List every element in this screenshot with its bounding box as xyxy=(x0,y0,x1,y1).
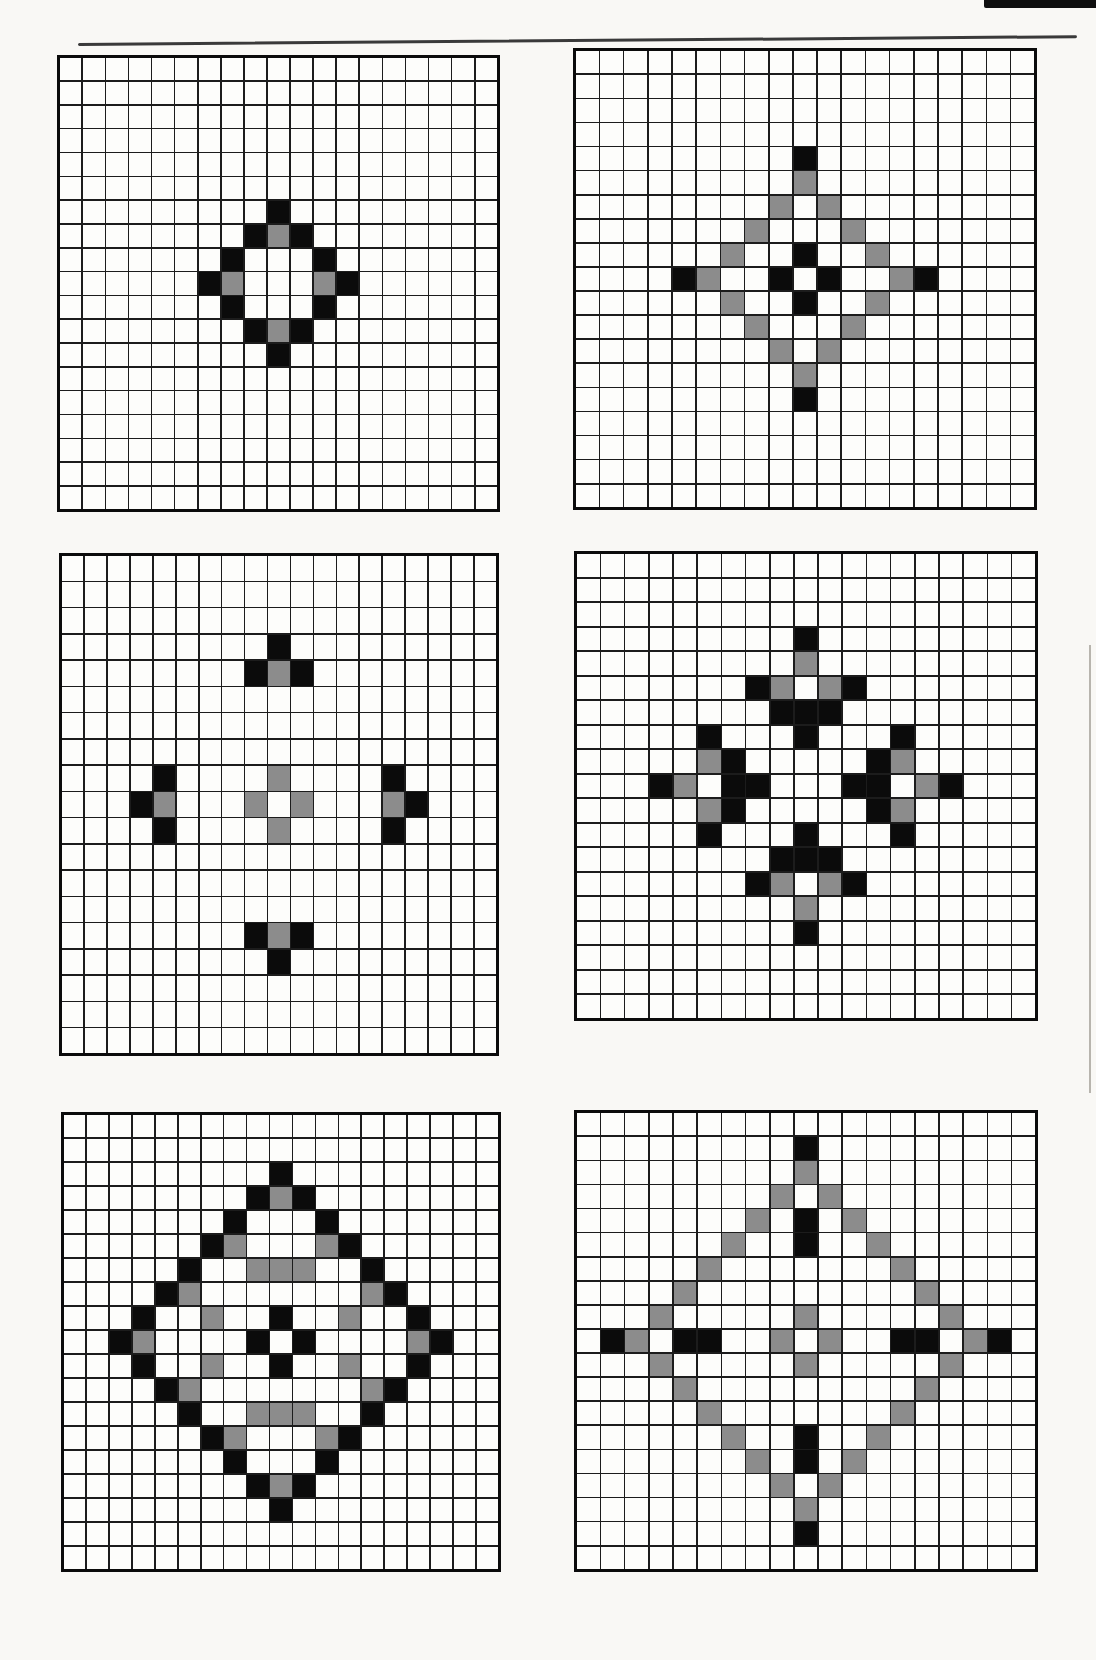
grid-cell xyxy=(600,268,623,290)
black-cell xyxy=(316,1211,337,1233)
grid-cell xyxy=(601,1474,624,1496)
grid-cell xyxy=(268,1028,289,1053)
grid-cell xyxy=(245,1002,266,1027)
black-cell xyxy=(891,1330,914,1352)
grid-cell xyxy=(674,1498,697,1521)
black-cell xyxy=(339,1427,360,1449)
grid-cell xyxy=(222,1002,243,1027)
grid-cell xyxy=(475,635,496,660)
grid-cell xyxy=(650,1450,673,1472)
grid-cell xyxy=(224,1379,245,1401)
grid-cell xyxy=(316,1547,337,1569)
grid-cell xyxy=(939,123,962,145)
grid-cell xyxy=(199,320,220,342)
grid-cell xyxy=(154,556,175,581)
grid-cell xyxy=(577,1474,600,1496)
grid-cell xyxy=(431,1523,452,1545)
grid-cell xyxy=(988,922,1011,945)
black-cell xyxy=(771,848,794,871)
grid-cell xyxy=(1012,1185,1035,1207)
grid-cell xyxy=(64,1283,85,1305)
grid-cell xyxy=(429,635,450,660)
grid-cell xyxy=(771,971,794,994)
grid-cell xyxy=(722,603,745,626)
black-cell xyxy=(179,1403,200,1425)
black-cell xyxy=(154,818,175,843)
grid-cell xyxy=(1011,340,1034,362)
gray-cell xyxy=(268,818,289,843)
grid-cell xyxy=(314,740,335,765)
grid-cell xyxy=(83,463,104,485)
grid-cell xyxy=(133,1259,154,1281)
grid-cell xyxy=(406,608,427,633)
grid-cell xyxy=(131,582,152,607)
grid-cell xyxy=(268,439,289,461)
grid-cell xyxy=(429,556,450,581)
grid-cell xyxy=(697,123,720,145)
grid-cell xyxy=(867,873,890,896)
grid-cell xyxy=(64,1355,85,1377)
gray-cell xyxy=(722,1233,745,1256)
grid-cell xyxy=(650,1522,673,1544)
grid-cell xyxy=(60,463,81,485)
grid-cell xyxy=(177,1028,198,1053)
grid-cell xyxy=(650,897,673,920)
grid-cell xyxy=(697,485,720,507)
black-cell xyxy=(843,775,866,798)
grid-cell xyxy=(746,995,769,1018)
grid-cell xyxy=(291,713,312,738)
grid-cell xyxy=(156,1259,177,1281)
grid-cell xyxy=(131,556,152,581)
grid-cell xyxy=(601,1522,624,1544)
grid-cell xyxy=(406,661,427,686)
grid-cell xyxy=(314,415,335,437)
grid-cell xyxy=(477,1379,498,1401)
grid-cell xyxy=(916,1233,939,1256)
grid-cell xyxy=(337,976,358,1001)
grid-cell xyxy=(106,58,128,80)
grid-cell xyxy=(429,82,451,104)
grid-cell xyxy=(154,1002,175,1027)
grid-cell xyxy=(337,687,358,712)
grid-cell xyxy=(625,1378,648,1400)
grid-cell xyxy=(431,1499,452,1521)
grid-cell xyxy=(268,740,289,765)
grid-cell xyxy=(746,1498,769,1521)
grid-cell xyxy=(245,635,266,660)
grid-cell xyxy=(362,1547,383,1569)
grid-cell xyxy=(429,415,451,437)
grid-cell xyxy=(649,244,672,267)
grid-cell xyxy=(988,848,1011,871)
grid-cell xyxy=(360,1028,381,1053)
grid-cell xyxy=(601,1233,624,1256)
grid-cell xyxy=(475,897,496,922)
grid-cell xyxy=(268,463,289,485)
grid-cell xyxy=(337,871,358,896)
grid-cell xyxy=(247,1523,268,1545)
black-cell xyxy=(673,268,696,290)
grid-cell xyxy=(1012,1354,1035,1377)
grid-cell xyxy=(650,1378,673,1400)
grid-cell xyxy=(963,75,986,97)
grid-cell xyxy=(988,1113,1011,1135)
grid-cell xyxy=(477,1235,498,1257)
grid-cell xyxy=(245,368,267,390)
grid-cell xyxy=(199,415,220,437)
grid-cell xyxy=(1012,1330,1035,1352)
grid-cell xyxy=(601,946,624,969)
grid-cell xyxy=(360,845,381,870)
grid-cell xyxy=(129,368,150,390)
grid-cell xyxy=(770,460,793,482)
grid-cell xyxy=(625,554,648,577)
grid-cell xyxy=(362,1499,383,1521)
grid-cell xyxy=(988,1282,1011,1304)
grid-cell xyxy=(429,950,450,975)
black-cell xyxy=(247,1331,268,1353)
grid-cell xyxy=(87,1523,108,1545)
grid-cell xyxy=(408,1163,429,1185)
gray-cell xyxy=(819,873,842,896)
grid-cell xyxy=(314,766,335,791)
grid-cell xyxy=(916,1137,939,1159)
grid-cell xyxy=(129,344,150,366)
grid-cell xyxy=(245,58,267,80)
